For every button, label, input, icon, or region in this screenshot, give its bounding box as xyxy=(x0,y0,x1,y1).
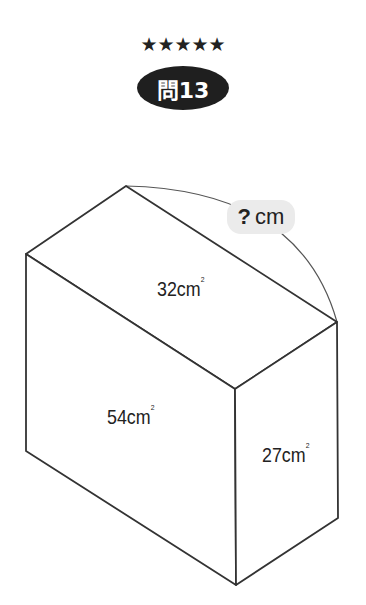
unknown-unit: cm xyxy=(255,204,284,230)
question-mark: ? xyxy=(238,204,251,230)
cuboid-figure xyxy=(0,0,366,605)
top-face-area-label: 32cm2 xyxy=(157,277,204,301)
side-face-area-label: 27cm2 xyxy=(262,443,309,467)
unknown-length-label: ? cm xyxy=(227,200,295,234)
front-face-area-label: 54cm2 xyxy=(107,405,154,429)
